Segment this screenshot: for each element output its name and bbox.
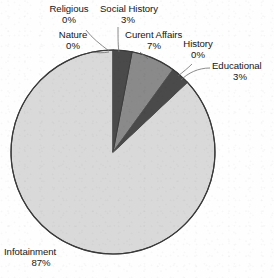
- slice-label-religious: Religious 0%: [42, 3, 96, 26]
- pie-chart-figure: Religious 0% Nature 0% Social History 3%…: [0, 0, 274, 278]
- slice-label-infotainment-percent: 87%: [4, 257, 78, 268]
- slice-label-infotainment-name: Infotainment: [4, 246, 56, 257]
- slice-label-curent-affairs-name: Curent Affairs: [125, 29, 182, 40]
- slice-label-educational-percent: 3%: [212, 71, 268, 82]
- slice-label-curent-affairs-percent: 7%: [125, 40, 183, 51]
- leader-line-history: [178, 64, 192, 76]
- slice-label-social-history-name: Social History: [100, 3, 158, 14]
- slice-label-educational: Educational 3%: [212, 60, 274, 83]
- slice-label-religious-percent: 0%: [42, 14, 96, 25]
- slice-label-nature: Nature 0%: [49, 29, 97, 52]
- slice-label-social-history-percent: 3%: [100, 14, 156, 25]
- slice-label-history: History 0%: [178, 38, 218, 61]
- slice-label-social-history: Social History 3%: [100, 3, 174, 26]
- slice-label-nature-percent: 0%: [49, 40, 97, 51]
- slice-label-religious-name: Religious: [49, 3, 88, 14]
- leader-line-social-history: [118, 27, 119, 52]
- slice-label-infotainment: Infotainment 87%: [4, 246, 84, 269]
- slice-label-nature-name: Nature: [59, 29, 88, 40]
- slice-label-history-name: History: [183, 38, 213, 49]
- slice-label-educational-name: Educational: [212, 60, 262, 71]
